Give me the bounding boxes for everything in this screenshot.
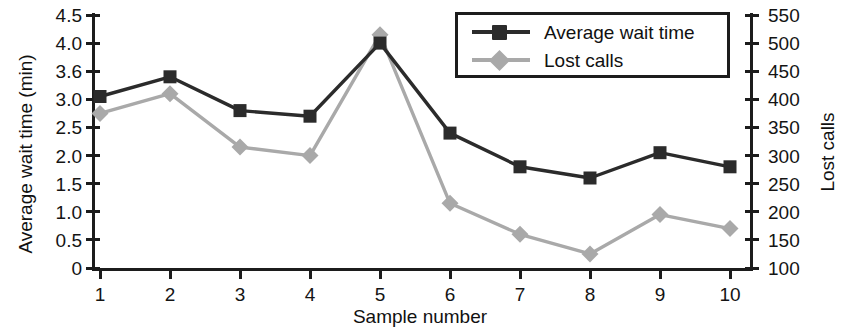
x-axis-tick-label: 9 [640,285,680,304]
y-axis-right-tick-label: 150 [768,231,824,250]
legend-key-average-wait-time [472,21,530,43]
legend-label-lost-calls: Lost calls [544,51,623,70]
y-axis-right-tick-label: 350 [768,118,824,137]
data-point-diamond [92,105,109,122]
y-axis-right-tick-label: 200 [768,203,824,222]
data-point-square [94,90,107,103]
diamond-marker-icon [489,50,510,71]
y-axis-left-tick-label: 2.0 [30,147,82,166]
y-axis-left-tick-label: 2.5 [30,118,82,137]
data-point-diamond [582,245,599,262]
x-axis-tick-label: 5 [360,285,400,304]
data-point-square [164,70,177,83]
y-axis-left-tick-label: 1.0 [30,203,82,222]
x-axis-tick-label: 8 [570,285,610,304]
x-axis-tick-label: 3 [220,285,260,304]
x-axis-title: Sample number [250,306,590,328]
data-point-diamond [442,195,459,212]
y-axis-left-tick-label: 1.5 [30,175,82,194]
x-axis-tick-label: 7 [500,285,540,304]
data-point-diamond [512,226,529,243]
x-axis-tick-label: 10 [710,285,750,304]
legend-label-average-wait-time: Average wait time [544,23,695,42]
legend-key-lost-calls [472,49,530,71]
x-axis-tick-label: 4 [290,285,330,304]
chart-legend: Average wait time Lost calls [455,12,730,78]
data-point-square [374,37,387,50]
data-point-diamond [722,220,739,237]
data-point-square [724,160,737,173]
data-point-square [584,172,597,185]
data-point-square [234,104,247,117]
y-axis-left-tick-label: 0 [30,259,82,278]
data-point-square [444,127,457,140]
x-axis-tick-label: 6 [430,285,470,304]
y-axis-right-tick-label: 500 [768,34,824,53]
y-axis-right-tick-label: 400 [768,90,824,109]
legend-item-lost-calls: Lost calls [458,46,727,74]
y-axis-right-tick-label: 250 [768,175,824,194]
x-axis-tick-label: 1 [80,285,120,304]
y-axis-left-tick-label: 0.5 [30,231,82,250]
y-axis-left-tick-label: 4.5 [30,6,82,25]
data-point-square [514,160,527,173]
data-point-diamond [302,147,319,164]
data-point-square [654,146,667,159]
data-point-diamond [652,206,669,223]
y-axis-right-tick-label: 100 [768,259,824,278]
y-axis-left-tick-label: 3.6 [30,62,82,81]
y-axis-left-tick-label: 4.0 [30,34,82,53]
square-marker-icon [492,25,507,40]
y-axis-right-tick-label: 300 [768,147,824,166]
line-chart: Average wait time (min) Lost calls Sampl… [0,0,851,331]
y-axis-right-tick-label: 550 [768,6,824,25]
y-axis-left-tick-label: 3.0 [30,90,82,109]
y-axis-right-tick-label: 450 [768,62,824,81]
x-axis-tick-label: 2 [150,285,190,304]
legend-item-average-wait-time: Average wait time [458,18,727,46]
data-point-square [304,110,317,123]
